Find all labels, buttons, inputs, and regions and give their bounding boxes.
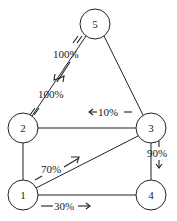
flow-1-to-3: 70% (35, 157, 79, 180)
flow-1-to-4: 30% (41, 200, 90, 212)
edge-5-3 (104, 36, 143, 115)
network-diagram: 100% 100% 10% 70% 30% 90% 5 2 (0, 0, 177, 221)
node-1: 1 (8, 180, 38, 210)
node-label: 4 (148, 189, 154, 201)
flow-3-to-2: 10% (89, 106, 132, 118)
flow-label-1-4: 30% (54, 200, 74, 212)
node-5: 5 (80, 9, 110, 39)
flow-label-5-2: 100% (53, 48, 79, 60)
flow-5-to-2: 100% 100% (30, 36, 82, 115)
flow-label-1-3: 70% (41, 163, 61, 175)
node-3: 3 (136, 113, 166, 143)
flow-3-to-4: 90% (147, 141, 167, 168)
flow-label-2-5: 100% (38, 88, 64, 100)
node-label: 1 (20, 189, 26, 201)
node-4: 4 (136, 180, 166, 210)
node-label: 5 (92, 18, 98, 30)
node-label: 2 (20, 122, 26, 134)
edge-1-3 (36, 136, 138, 188)
flow-label-3-4: 90% (147, 147, 167, 159)
flow-label-3-2: 10% (98, 106, 118, 118)
node-label: 3 (148, 122, 154, 134)
node-2: 2 (8, 113, 38, 143)
